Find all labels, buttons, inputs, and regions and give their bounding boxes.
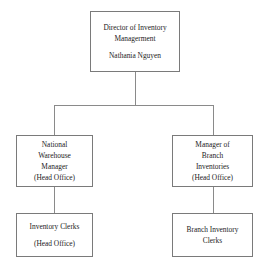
org-node-branch-inventories-manager-line-3: Inventories	[196, 161, 229, 172]
org-node-national-warehouse-manager[interactable]: National Warehouse Manager (Head Office)	[16, 135, 93, 187]
org-node-branch-inventory-clerks-line-1: Branch Inventory	[187, 224, 239, 235]
org-node-national-warehouse-manager-line-4: (Head Office)	[34, 172, 75, 183]
org-node-branch-inventory-clerks-line-2: Clerks	[203, 235, 222, 246]
connector-national-warehouse-manager-to-inventory-clerks	[54, 187, 55, 213]
org-node-director-person: Nathania Nguyen	[109, 50, 161, 61]
org-node-branch-inventories-manager[interactable]: Manager of Branch Inventories (Head Offi…	[172, 135, 253, 187]
org-node-inventory-clerks[interactable]: Inventory Clerks (Head Office)	[16, 213, 93, 257]
connector-branch-inventories-manager-to-branch-inventory-clerks	[213, 187, 214, 213]
org-node-director-line-2: Managerment	[114, 33, 155, 44]
org-node-branch-inventories-manager-line-4: (Head Office)	[192, 172, 233, 183]
connector-bus-to-branch-inventories-manager	[213, 105, 214, 135]
org-node-inventory-clerks-location: (Head Office)	[34, 238, 75, 249]
connector-bus-to-national-warehouse-manager	[54, 105, 55, 135]
org-node-inventory-clerks-line-1: Inventory Clerks	[30, 221, 80, 232]
connector-director-to-bus	[135, 72, 136, 106]
org-node-national-warehouse-manager-line-1: National	[42, 139, 67, 150]
org-node-branch-inventories-manager-line-2: Branch	[202, 150, 223, 161]
org-node-director-line-1: Director of Inventory	[103, 22, 166, 33]
org-node-national-warehouse-manager-line-3: Manager	[41, 161, 67, 172]
connector-horizontal-bus	[54, 105, 214, 106]
org-node-branch-inventories-manager-line-1: Manager of	[195, 139, 229, 150]
org-node-national-warehouse-manager-line-2: Warehouse	[38, 150, 71, 161]
org-node-director[interactable]: Director of Inventory Managerment Nathan…	[90, 11, 180, 72]
org-node-branch-inventory-clerks[interactable]: Branch Inventory Clerks	[172, 213, 253, 257]
org-chart-canvas: Director of Inventory Managerment Nathan…	[0, 0, 269, 265]
